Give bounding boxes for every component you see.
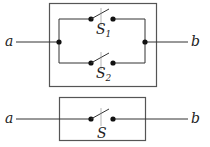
switch-s-contact-right: [110, 116, 115, 121]
switch-s2-contact-right: [110, 60, 115, 65]
terminal-a-label: a: [5, 33, 13, 49]
switch-s1-contact-right: [110, 16, 115, 21]
single-switch-circuit: S a b: [5, 98, 200, 142]
node-right: [142, 39, 147, 44]
circuit-diagram: S1 S2 a b S a b: [0, 0, 210, 147]
switch-s2-blade: [91, 53, 109, 63]
node-left: [56, 39, 61, 44]
switch-s2-label: S2: [96, 65, 112, 83]
terminal-b-label-bottom: b: [191, 110, 200, 126]
switch-s-blade: [91, 109, 109, 119]
parallel-switch-circuit: S1 S2 a b: [5, 4, 200, 87]
switch-s1-blade: [91, 9, 109, 19]
switch-s-label: S: [97, 125, 107, 141]
terminal-b-label: b: [191, 33, 200, 49]
terminal-a-label-bottom: a: [5, 110, 13, 126]
switch-s1-label: S1: [96, 21, 111, 39]
